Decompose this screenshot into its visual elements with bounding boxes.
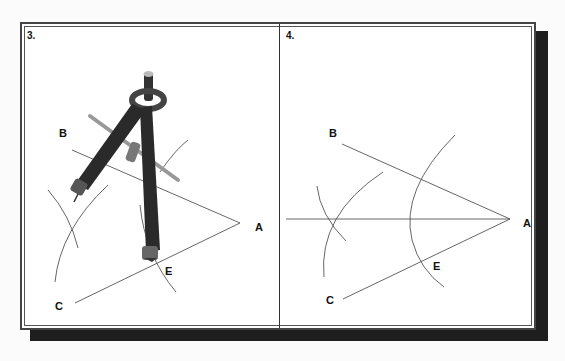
line-ca [343, 219, 510, 299]
panel-3-label-b: B [59, 127, 67, 139]
panel-4-label-e: E [433, 260, 440, 272]
panel-4-label-c: C [326, 294, 334, 306]
line-ba [342, 144, 510, 219]
diagram-canvas: B A C E B A C E [0, 0, 565, 361]
arc-upper [160, 140, 188, 172]
panel-3-label-c: C [55, 300, 63, 312]
arc-left-1 [48, 190, 78, 248]
compass-icon [69, 71, 178, 262]
panel-4-drawing [286, 135, 510, 299]
arc-left-2 [55, 185, 108, 282]
panel-4-label-b: B [329, 127, 337, 139]
panel-4-label-a: A [523, 217, 531, 229]
panel-3-label-e: E [165, 265, 172, 277]
panel-3-label-a: A [255, 221, 263, 233]
arc-intersect-1 [317, 186, 346, 241]
